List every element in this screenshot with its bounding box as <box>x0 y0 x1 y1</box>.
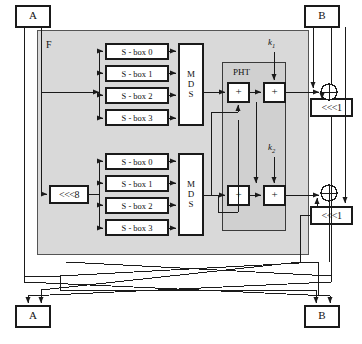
mds-lower-label: M D S <box>179 179 203 209</box>
subkey-k2-sub: 2 <box>272 147 275 154</box>
twofish-f-function-diagram: A B A B F PHT S - box 0 S - box 1 S - bo… <box>0 0 362 344</box>
mds-upper-line-s: S <box>179 89 203 99</box>
sbox-upper-3-label: S - box 3 <box>106 114 168 123</box>
mds-lower-line-m: M <box>179 179 203 189</box>
rotate-output-upper-label: <<<1 <box>311 103 352 113</box>
sbox-upper-1-label: S - box 1 <box>106 70 168 79</box>
sbox-lower-3-label: S - box 3 <box>106 224 168 233</box>
key-adder-upper-label: + <box>264 86 285 97</box>
sbox-lower-1-label: S - box 1 <box>106 180 168 189</box>
sbox-lower-0-label: S - box 0 <box>106 158 168 167</box>
pht-label: PHT <box>233 68 250 77</box>
mds-upper-line-m: M <box>179 69 203 79</box>
mds-upper-line-d: D <box>179 79 203 89</box>
sbox-lower-2-label: S - box 2 <box>106 202 168 211</box>
sbox-upper-0-label: S - box 0 <box>106 48 168 57</box>
rotate-input-label: <<<8 <box>50 190 88 200</box>
f-function-label: F <box>46 40 52 50</box>
key-adder-lower-label: + <box>264 189 285 200</box>
register-b-bottom-label: B <box>305 310 339 321</box>
subkey-k2-label: k2 <box>268 143 275 154</box>
pht-adder-lower-label: + <box>228 189 249 200</box>
register-a-bottom-label: A <box>16 310 50 321</box>
register-a-top-label: A <box>16 10 50 21</box>
sbox-upper-2-label: S - box 2 <box>106 92 168 101</box>
register-b-top-label: B <box>305 10 339 21</box>
diagram-canvas <box>0 0 362 344</box>
pht-adder-upper-label: + <box>228 86 249 97</box>
rotate-output-lower-label: <<<1 <box>311 211 352 221</box>
mds-lower-line-d: D <box>179 189 203 199</box>
subkey-k1-label: k1 <box>268 38 275 49</box>
subkey-k1-sub: 1 <box>272 42 275 49</box>
mds-upper-label: M D S <box>179 69 203 99</box>
mds-lower-line-s: S <box>179 199 203 209</box>
